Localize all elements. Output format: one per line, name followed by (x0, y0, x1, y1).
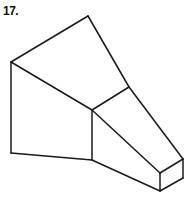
edge-box_front_top-box_right_top (160, 159, 183, 173)
edge-mid_top-right_upper (92, 87, 129, 110)
edge-box_right_bottom-box_front_bottom (160, 178, 183, 191)
edge-mid_top-box_front_top (92, 110, 160, 173)
edge-right_upper-box_right_top (129, 87, 183, 159)
edge-left_top-mid_top (11, 62, 92, 110)
shape-edges (11, 16, 183, 191)
edge-left_top-top (11, 16, 88, 62)
edge-top-right_upper (88, 16, 129, 87)
edge-left_bottom-mid_bottom (11, 153, 92, 160)
solid-shape-line-drawing (0, 0, 192, 201)
edge-mid_bottom-box_front_bottom (92, 160, 160, 191)
